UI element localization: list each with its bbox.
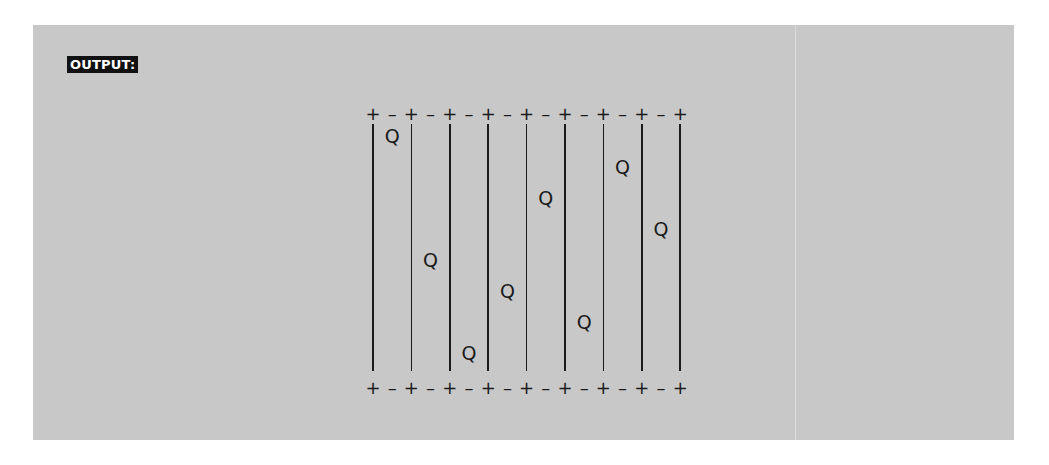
border-corner-glyph: + (481, 377, 496, 398)
border-corner-glyph: + (673, 377, 688, 398)
border-edge-glyph: – (465, 103, 474, 124)
queen-piece: Q (423, 249, 438, 271)
border-corner-glyph: + (404, 103, 419, 124)
border-corner-glyph: + (365, 377, 380, 398)
queen-piece: Q (462, 342, 477, 364)
queen-piece: Q (577, 311, 592, 333)
border-edge-glyph: – (618, 103, 627, 124)
border-corner-glyph: + (557, 377, 572, 398)
queens-board: +–+–+–+–+–+–+–+–+ +–+–+–+–+–+–+–+–+ QQQQ… (368, 103, 688, 403)
border-edge-glyph: – (426, 103, 435, 124)
border-corner-glyph: + (442, 377, 457, 398)
column-divider (372, 124, 374, 371)
column-divider (411, 124, 413, 371)
border-edge-glyph: – (503, 377, 512, 398)
border-corner-glyph: + (404, 377, 419, 398)
border-edge-glyph: – (580, 377, 589, 398)
border-corner-glyph: + (634, 103, 649, 124)
border-edge-glyph: – (388, 377, 397, 398)
border-corner-glyph: + (365, 103, 380, 124)
border-edge-glyph: – (426, 377, 435, 398)
output-label: OUTPUT: (67, 56, 138, 73)
border-edge-glyph: – (618, 377, 627, 398)
column-divider (487, 124, 489, 371)
border-edge-glyph: – (465, 377, 474, 398)
queen-piece: Q (615, 156, 630, 178)
border-edge-glyph: – (388, 103, 397, 124)
border-corner-glyph: + (442, 103, 457, 124)
panel-seam (795, 25, 796, 440)
border-corner-glyph: + (634, 377, 649, 398)
border-corner-glyph: + (557, 103, 572, 124)
border-corner-glyph: + (519, 377, 534, 398)
border-edge-glyph: – (657, 103, 666, 124)
border-edge-glyph: – (541, 103, 550, 124)
column-divider (641, 124, 643, 371)
column-divider (679, 124, 681, 371)
border-edge-glyph: – (541, 377, 550, 398)
output-panel: OUTPUT: +–+–+–+–+–+–+–+–+ +–+–+–+–+–+–+–… (33, 25, 1014, 440)
border-corner-glyph: + (673, 103, 688, 124)
column-divider (449, 124, 451, 371)
border-edge-glyph: – (657, 377, 666, 398)
border-edge-glyph: – (580, 103, 589, 124)
column-divider (526, 124, 528, 371)
queen-piece: Q (654, 218, 669, 240)
queen-piece: Q (500, 280, 515, 302)
border-corner-glyph: + (481, 103, 496, 124)
queen-piece: Q (385, 125, 400, 147)
border-corner-glyph: + (596, 103, 611, 124)
border-corner-glyph: + (596, 377, 611, 398)
column-divider (603, 124, 605, 371)
column-divider (564, 124, 566, 371)
border-edge-glyph: – (503, 103, 512, 124)
queen-piece: Q (538, 187, 553, 209)
border-corner-glyph: + (519, 103, 534, 124)
